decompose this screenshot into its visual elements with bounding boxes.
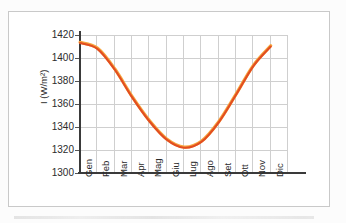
y-tick-label: 1400 [52, 53, 74, 63]
y-tick-label: 1340 [52, 122, 74, 132]
y-tick-label: 1300 [52, 168, 74, 178]
y-axis-title: I (W/m²) [39, 70, 49, 104]
plot-area: 1300132013401360138014001420 GenFebMarAp… [79, 35, 287, 173]
y-tick-label: 1360 [52, 99, 74, 109]
figure-root: I (W/m²) 1300132013401360138014001420 Ge… [0, 0, 346, 223]
caption-trace [14, 216, 314, 219]
y-tick-label: 1320 [52, 145, 74, 155]
y-tick-label: 1420 [52, 30, 74, 40]
y-tick-label: 1380 [52, 76, 74, 86]
series-line-chart [79, 35, 287, 173]
series-line-highlight [80, 42, 271, 147]
chart-frame: I (W/m²) 1300132013401360138014001420 Ge… [8, 11, 330, 207]
gridline-vertical [287, 35, 288, 173]
